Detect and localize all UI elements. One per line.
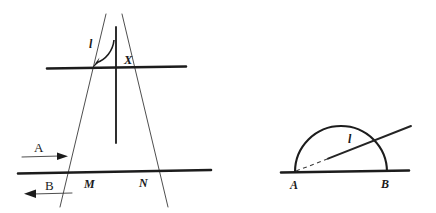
surface-line [47, 67, 186, 69]
geometry-figure-canvas: l X M N A B l A B [0, 0, 436, 213]
point-label-b: B [380, 177, 389, 191]
semicircle-arc [295, 126, 387, 172]
arrow-right-head-icon [57, 153, 68, 161]
point-label-n: N [138, 176, 149, 190]
left-ray-label: l [89, 37, 93, 51]
arrow-left-shaft [33, 193, 72, 194]
ray-dashed-segment [296, 158, 330, 171]
point-label-a: A [289, 178, 298, 192]
arrow-right-group [22, 153, 68, 161]
diameter-line [281, 171, 409, 173]
arrow-right-shaft [22, 156, 60, 157]
point-label-m: M [83, 177, 95, 191]
base-line [18, 170, 211, 174]
direction-label-b: B [45, 178, 54, 193]
ray-through-m [60, 14, 106, 207]
right-panel: l A B [281, 126, 411, 192]
right-ray-label: l [348, 132, 352, 146]
direction-label-a: A [34, 140, 44, 155]
point-label-x: X [123, 53, 133, 67]
arrow-left-head-icon [24, 190, 36, 199]
left-panel: l X M N A B [18, 14, 211, 207]
ray-solid-segment [328, 126, 411, 159]
